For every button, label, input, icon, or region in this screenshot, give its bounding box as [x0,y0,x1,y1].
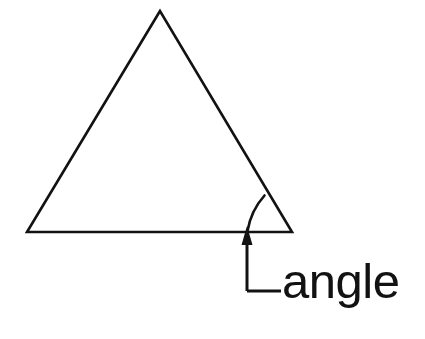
angle-label: angle [282,254,399,308]
diagram-canvas: angle [0,0,425,339]
angle-diagram-svg: angle [0,0,425,339]
